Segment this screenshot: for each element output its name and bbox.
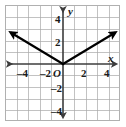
coordinate-plane-figure: –4 –2 2 4 4 2 –2 –4 O y x	[0, 0, 126, 127]
x-tick-label-neg2: –2	[40, 68, 51, 79]
x-axis-label: x	[108, 53, 114, 64]
y-tick-label-pos2: 2	[55, 37, 61, 48]
y-tick-label-neg4: –4	[51, 106, 62, 117]
x-tick-label-pos4: 4	[104, 68, 110, 79]
x-tick-label-neg4: –4	[17, 68, 28, 79]
y-tick-label-pos4: 4	[55, 14, 61, 25]
y-tick-label-neg2: –2	[51, 83, 62, 94]
x-tick-label-pos2: 2	[81, 68, 87, 79]
origin-label: O	[53, 68, 61, 79]
y-axis-label: y	[68, 6, 73, 17]
